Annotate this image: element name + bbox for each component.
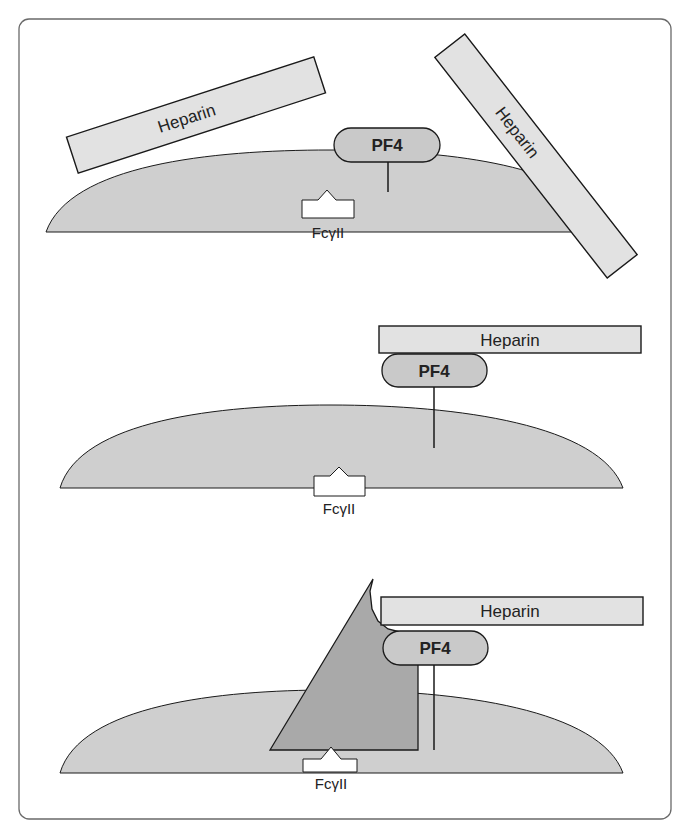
fcgii-label: FcγII [312,224,345,241]
heparin-label: Heparin [480,602,540,621]
pf4-label: PF4 [418,362,450,381]
fcgii-label: FcγII [315,775,348,792]
hit-mechanism-diagram: FcγII PF4 Heparin Heparin FcγII PF4 Hepa… [0,0,690,832]
pf4-label: PF4 [371,136,403,155]
pf4-label: PF4 [419,639,451,658]
fcgii-label: FcγII [323,500,356,517]
heparin-label: Heparin [480,331,540,350]
